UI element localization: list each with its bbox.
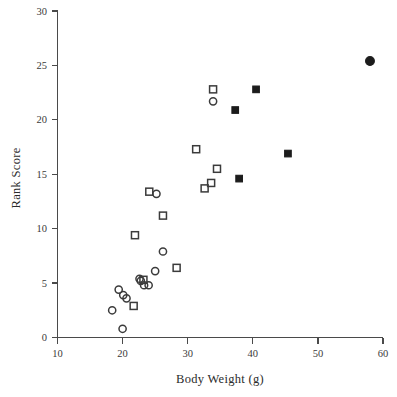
y-tick-label: 10 — [37, 223, 48, 234]
x-tick-label: 30 — [182, 348, 193, 359]
y-tick-label: 20 — [37, 114, 48, 125]
data-point-filled-square — [236, 175, 243, 182]
data-point-filled-circle — [366, 57, 375, 66]
chart-canvas: 051015202530 102030405060 Body Weight (g… — [0, 0, 397, 397]
x-tick-label: 20 — [117, 348, 128, 359]
data-point-filled-square — [253, 86, 260, 93]
y-tick-label: 25 — [37, 60, 48, 71]
y-tick-label: 15 — [37, 169, 48, 180]
x-tick-label: 60 — [378, 348, 389, 359]
x-tick-label: 40 — [248, 348, 259, 359]
series-filled-circle — [366, 57, 375, 66]
x-tick-label: 10 — [52, 348, 63, 359]
y-axis-title: Rank Score — [9, 147, 23, 208]
scatter-plot-figure: 051015202530 102030405060 Body Weight (g… — [0, 0, 397, 397]
x-tick-label: 50 — [313, 348, 324, 359]
x-axis-title: Body Weight (g) — [176, 372, 264, 386]
data-point-filled-square — [232, 107, 239, 114]
y-tick-label: 5 — [42, 278, 47, 289]
y-tick-label: 0 — [42, 332, 47, 343]
y-tick-label: 30 — [37, 6, 48, 17]
data-point-filled-square — [285, 150, 292, 157]
